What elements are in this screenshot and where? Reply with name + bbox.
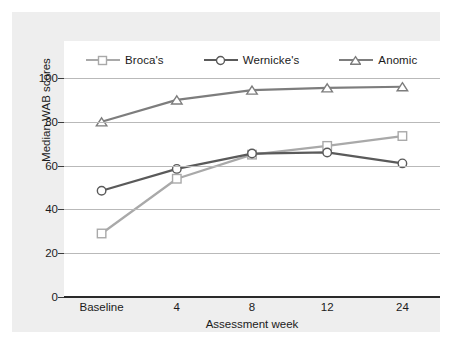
data-point bbox=[323, 148, 332, 157]
y-tick-label: 40 bbox=[12, 203, 58, 215]
y-tick-mark bbox=[58, 297, 64, 298]
y-tick-label: 20 bbox=[12, 247, 58, 259]
legend-key bbox=[204, 53, 238, 67]
square-marker-icon bbox=[97, 55, 108, 66]
gridline bbox=[64, 253, 440, 254]
legend-label: Wernicke's bbox=[243, 54, 300, 66]
gridline bbox=[64, 166, 440, 167]
x-tick-label: 8 bbox=[249, 301, 255, 313]
x-axis-label: Assessment week bbox=[64, 318, 440, 330]
x-tick-label: 24 bbox=[396, 301, 409, 313]
data-point bbox=[97, 229, 106, 238]
data-point bbox=[97, 187, 106, 196]
data-point bbox=[173, 174, 182, 183]
series-broca-s bbox=[97, 132, 406, 238]
legend-item-anomic[interactable]: Anomic bbox=[339, 53, 417, 67]
x-tick-label: Baseline bbox=[80, 301, 124, 313]
y-tick-mark bbox=[58, 209, 64, 210]
y-tick-mark bbox=[58, 166, 64, 167]
plot-area bbox=[64, 78, 440, 297]
series-anomic bbox=[96, 83, 407, 126]
chart-legend: Broca'sWernicke'sAnomic bbox=[64, 48, 440, 72]
y-tick-mark bbox=[58, 78, 64, 79]
triangle-marker-icon bbox=[350, 55, 361, 66]
legend-item-broca-s[interactable]: Broca's bbox=[86, 53, 164, 67]
series-lines bbox=[64, 78, 440, 297]
x-axis-line bbox=[64, 296, 440, 298]
y-axis-label: Median WAB scores bbox=[40, 30, 52, 190]
gridline bbox=[64, 209, 440, 210]
legend-item-wernicke-s[interactable]: Wernicke's bbox=[204, 53, 300, 67]
circle-marker-icon bbox=[215, 55, 226, 66]
legend-label: Broca's bbox=[125, 54, 164, 66]
legend-label: Anomic bbox=[378, 54, 417, 66]
y-tick-mark bbox=[58, 122, 64, 123]
data-point bbox=[248, 149, 257, 158]
legend-key bbox=[339, 53, 373, 67]
x-tick-label: 12 bbox=[321, 301, 334, 313]
chart-panel: Broca'sWernicke'sAnomic 020406080100 Bas… bbox=[12, 12, 440, 332]
gridline bbox=[64, 78, 440, 79]
figure-container: Broca'sWernicke'sAnomic 020406080100 Bas… bbox=[0, 0, 462, 348]
gridline bbox=[64, 122, 440, 123]
y-tick-label: 0 bbox=[12, 291, 58, 303]
series-wernicke-s bbox=[97, 148, 406, 195]
data-point bbox=[398, 132, 407, 141]
y-tick-mark bbox=[58, 253, 64, 254]
legend-key bbox=[86, 53, 120, 67]
x-tick-label: 4 bbox=[174, 301, 180, 313]
